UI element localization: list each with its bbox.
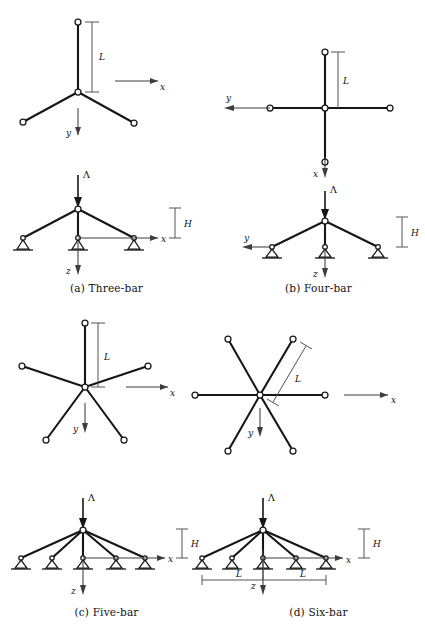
x-axis-label: x	[170, 388, 175, 398]
panel-three-bar: L x y Λ	[0, 0, 213, 300]
z-axis-arrowhead	[322, 268, 328, 278]
pin-support	[42, 556, 62, 569]
hub-node	[75, 89, 81, 95]
x-axis-label: x	[346, 555, 351, 565]
length-dimension-cap	[267, 399, 279, 406]
four-bar-plan-view: L y	[212, 0, 425, 165]
z-axis-label: z	[70, 586, 76, 596]
y-axis-arrowhead	[242, 244, 252, 250]
hinge-node	[290, 336, 296, 342]
bar-member	[23, 209, 78, 238]
pin-support	[222, 556, 242, 569]
panel-four-bar: L y x Λ y	[212, 0, 425, 300]
apex-node	[322, 218, 328, 224]
x-axis-label: x	[161, 234, 166, 244]
apex-node	[260, 527, 266, 533]
height-label: H	[372, 539, 381, 549]
span-label-left: L	[235, 569, 242, 579]
load-label: Λ	[329, 184, 337, 195]
length-dimension-line	[273, 346, 306, 402]
bar-spoke	[78, 92, 134, 123]
hinge-node	[290, 448, 296, 454]
load-label: Λ	[82, 169, 90, 180]
four-bar-elevation-view: x Λ y	[212, 155, 425, 283]
z-axis-arrowhead	[260, 585, 266, 595]
x-axis-label: x	[168, 554, 173, 564]
y-axis-arrowhead	[82, 423, 88, 433]
apex-node	[75, 206, 81, 212]
height-label: H	[183, 219, 192, 229]
hinge-node	[43, 437, 49, 443]
hub-node	[257, 392, 263, 398]
y-axis-label: y	[225, 93, 232, 103]
pin-support	[11, 556, 31, 569]
y-axis-label: y	[65, 128, 72, 138]
z-axis-label: z	[312, 269, 318, 279]
z-axis-arrowhead	[75, 265, 81, 275]
z-axis-label: z	[65, 266, 71, 276]
hinge-node	[192, 392, 198, 398]
height-label: H	[410, 228, 419, 238]
y-axis-arrowhead	[224, 105, 234, 111]
x-axis-arrowhead	[160, 384, 168, 390]
hinge-node	[75, 19, 81, 25]
x-axis-arrowhead	[150, 78, 158, 84]
length-dimension-cap	[300, 342, 312, 349]
three-bar-plan-view: L x y	[0, 0, 213, 160]
hinge-node	[19, 363, 25, 369]
three-bar-elevation-view: Λ x	[0, 160, 213, 280]
hinge-node	[225, 336, 231, 342]
x-axis-arrowhead	[157, 555, 165, 561]
hinge-node	[322, 392, 328, 398]
bar-spoke	[85, 387, 124, 440]
six-bar-elevation-view: Λ	[212, 490, 425, 608]
hinge-node	[82, 320, 88, 326]
length-label: L	[294, 374, 301, 384]
apex-node	[80, 527, 86, 533]
bar-spoke	[228, 339, 260, 395]
bar-spoke	[260, 339, 293, 395]
bar-member	[272, 221, 325, 247]
y-axis-label: y	[72, 424, 79, 434]
hinge-node	[131, 120, 137, 126]
y-axis-label: y	[247, 428, 254, 438]
bar-member	[263, 530, 326, 558]
bar-member	[83, 530, 116, 558]
hinge-node	[387, 105, 393, 111]
panel-five-bar: L x y Λ	[0, 310, 213, 630]
hinge-node	[322, 49, 328, 55]
bar-member	[78, 209, 134, 238]
bar-member	[325, 221, 378, 247]
y-axis-arrowhead	[257, 427, 263, 437]
bar-spoke	[23, 92, 78, 122]
x-axis-label-plan: x	[313, 169, 318, 179]
x-axis-label: x	[391, 395, 396, 405]
panel-six-bar: L x y Λ	[212, 310, 425, 630]
hub-node	[82, 384, 88, 390]
panel-caption-a: (a) Three-bar	[0, 282, 213, 294]
hinge-node	[20, 119, 26, 125]
x-axis-arrowhead	[150, 235, 158, 241]
y-axis-label: y	[243, 233, 250, 243]
x-axis-label: x	[160, 82, 165, 92]
y-axis-arrowhead	[75, 127, 81, 135]
z-axis-label: z	[250, 581, 256, 591]
hinge-node	[225, 448, 231, 454]
bar-member	[52, 530, 83, 558]
span-label-right: L	[299, 569, 306, 579]
figure-root: L x y Λ	[0, 0, 425, 630]
bar-member	[232, 530, 263, 558]
six-bar-plan-view: L x y	[212, 310, 425, 460]
panel-caption-c: (c) Five-bar	[0, 606, 213, 618]
bar-spoke	[228, 395, 260, 451]
bar-member	[21, 530, 83, 558]
length-label: L	[98, 52, 105, 62]
load-label: Λ	[267, 492, 275, 503]
bar-member	[83, 530, 145, 558]
length-label: L	[342, 76, 349, 86]
bar-member	[202, 530, 263, 558]
bar-spoke	[22, 366, 85, 387]
bar-spoke	[46, 387, 85, 440]
height-label: H	[190, 539, 199, 549]
pin-support	[13, 236, 33, 250]
